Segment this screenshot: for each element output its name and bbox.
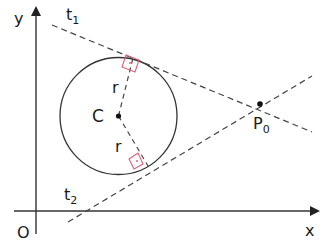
radius-lower	[119, 116, 149, 166]
tangent-lines-diagram: y x O C r r P0 t1 t2	[0, 0, 326, 244]
y-axis-label: y	[14, 9, 23, 28]
radius-upper	[119, 58, 134, 116]
x-axis-label: x	[305, 221, 314, 240]
radius-label-upper: r	[112, 78, 119, 97]
tangent-label-t2: t2	[64, 185, 77, 207]
tangent-line-t1	[52, 25, 312, 132]
origin-label: O	[17, 223, 30, 242]
tangent-label-t1: t1	[66, 5, 79, 27]
center-point-c	[116, 113, 121, 118]
tangent-line-t2	[68, 76, 312, 222]
radius-label-lower: r	[115, 137, 122, 156]
right-angle-marker-lower	[129, 153, 143, 169]
center-label: C	[92, 106, 104, 126]
point-p0	[257, 101, 263, 107]
point-p0-label: P0	[253, 114, 270, 136]
